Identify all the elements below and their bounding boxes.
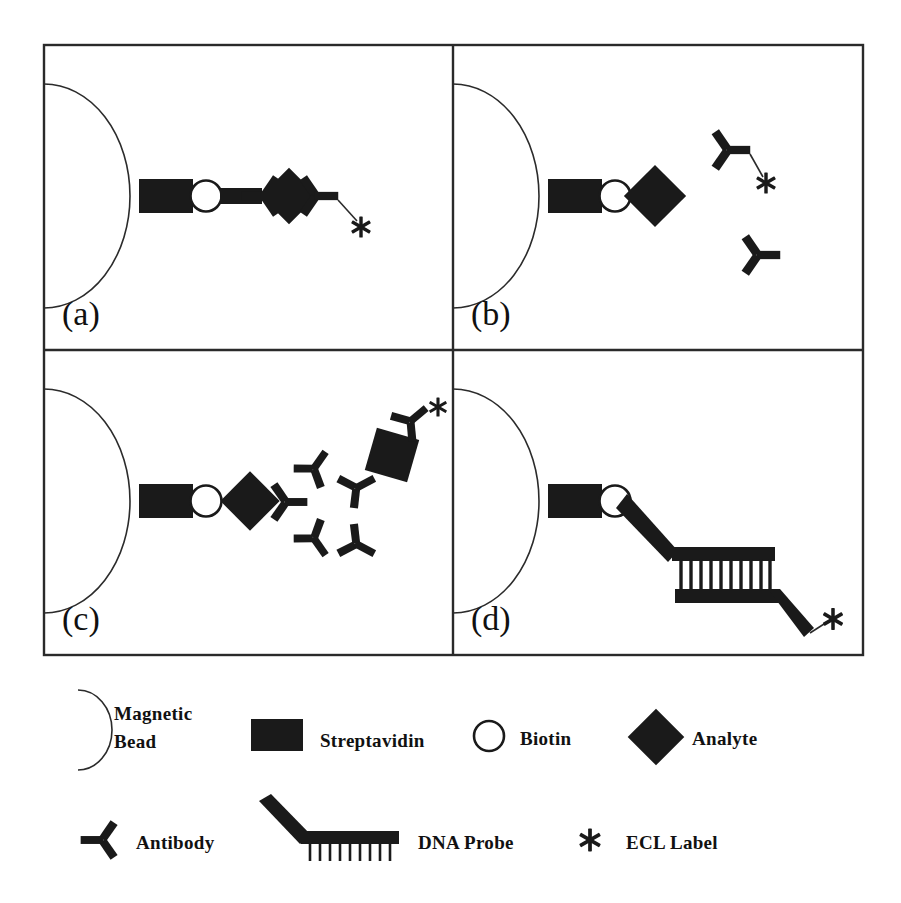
magnetic-bead-icon (453, 389, 539, 613)
analyte-icon (261, 168, 318, 225)
secondary-antibody-icon (290, 441, 341, 492)
dna-probe-lower-strand (768, 589, 814, 637)
legend-label-dna-probe: DNA Probe (418, 832, 514, 853)
dna-probe-icon (259, 794, 399, 861)
legend-row-1: Magnetic Bead Streptavidin Biotin Analyt… (78, 690, 757, 770)
dna-probe-bar (301, 831, 399, 844)
ecl-label-icon (579, 828, 601, 851)
antibody-icon (81, 820, 118, 860)
legend: Magnetic Bead Streptavidin Biotin Analyt… (78, 690, 757, 861)
panel-b-label: (b) (471, 295, 511, 333)
legend-label-magnetic-bead-line2: Bead (114, 731, 157, 752)
dna-probe-bottom-bar (675, 589, 780, 603)
schematic-figure: (a) (b) (0, 0, 901, 903)
ecl-label-icon (429, 397, 447, 416)
legend-item-biotin: Biotin (474, 721, 572, 751)
dna-probe-upper-strand (616, 494, 678, 562)
analyte-icon (624, 165, 686, 227)
legend-item-analyte: Analyte (628, 709, 758, 766)
ecl-tether (750, 154, 763, 177)
panel-b: (b) (453, 84, 780, 333)
streptavidin-icon (139, 179, 193, 213)
streptavidin-icon (548, 484, 602, 518)
legend-item-ecl-label: ECL Label (579, 828, 718, 853)
dna-probe-teeth (310, 843, 390, 861)
legend-label-magnetic-bead-line1: Magnetic (114, 703, 192, 724)
tertiary-antibody-icon (334, 520, 383, 570)
legend-item-antibody: Antibody (81, 820, 215, 860)
ecl-tether (338, 200, 357, 221)
magnetic-bead-icon (78, 690, 112, 770)
legend-label-antibody: Antibody (136, 832, 215, 853)
legend-label-analyte: Analyte (692, 728, 757, 749)
streptavidin-icon (251, 719, 303, 751)
magnetic-bead-icon (453, 84, 539, 308)
streptavidin-icon (139, 484, 193, 518)
ecl-label-icon (823, 608, 844, 630)
free-antibody-icon (742, 234, 781, 275)
panel-a-label: (a) (62, 295, 100, 333)
panel-c-label: (c) (62, 600, 100, 638)
detection-antibody-icon (712, 129, 751, 170)
ecl-label-icon (756, 172, 776, 193)
legend-label-streptavidin: Streptavidin (320, 730, 425, 751)
legend-row-2: Antibody (81, 794, 718, 861)
legend-label-ecl-label: ECL Label (626, 832, 718, 853)
panel-d: (d) (453, 389, 843, 638)
biotin-icon (191, 181, 222, 212)
legend-item-magnetic-bead: Magnetic Bead (78, 690, 192, 770)
analyte-icon (220, 471, 279, 530)
panel-c: (c) (44, 389, 447, 638)
dna-probe-rungs (681, 559, 770, 593)
figure-root: (a) (b) (0, 0, 901, 903)
legend-label-biotin: Biotin (520, 728, 572, 749)
ecl-label-icon (351, 216, 371, 237)
legend-item-streptavidin: Streptavidin (251, 719, 425, 751)
biotin-icon (191, 486, 222, 517)
panel-d-label: (d) (471, 600, 511, 638)
biotin-icon (474, 721, 504, 751)
magnetic-bead-icon (44, 84, 130, 308)
legend-item-dna-probe: DNA Probe (259, 794, 514, 861)
magnetic-bead-icon (44, 389, 130, 613)
secondary-antibody-icon (290, 515, 341, 566)
analyte-icon (628, 709, 685, 766)
dna-probe-top-bar (672, 547, 775, 561)
streptavidin-icon (548, 179, 602, 213)
panel-a: (a) (44, 84, 371, 333)
